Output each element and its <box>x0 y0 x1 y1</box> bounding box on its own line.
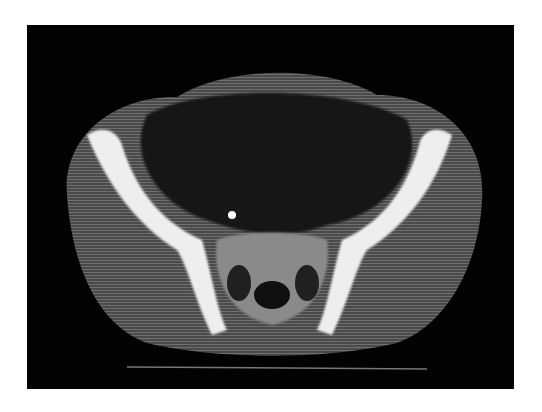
left-sacral-foramen <box>227 265 251 301</box>
contrast-dot <box>228 211 236 219</box>
ct-scan-image <box>27 25 514 389</box>
spinal-canal <box>254 281 290 309</box>
ct-slice-illustration <box>27 25 514 389</box>
scanner-table-line <box>127 367 427 369</box>
right-sacral-foramen <box>295 265 319 301</box>
